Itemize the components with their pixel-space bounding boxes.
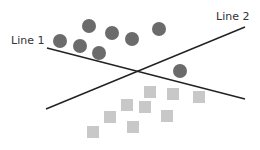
circle-point [105, 26, 119, 40]
line-2-label: Line 2 [216, 10, 249, 23]
circle-point [73, 39, 87, 53]
square-point [167, 88, 179, 100]
square-point [121, 99, 133, 111]
line-1-label: Line 1 [11, 34, 44, 47]
square-point [87, 126, 99, 138]
square-class-group [87, 86, 205, 138]
diagram-canvas: Line 1 Line 2 [0, 0, 260, 150]
circle-point [152, 22, 166, 36]
circle-point [82, 19, 96, 33]
square-point [144, 86, 156, 98]
square-point [127, 121, 139, 133]
square-point [193, 91, 205, 103]
circle-class-group [53, 19, 187, 78]
square-point [104, 111, 116, 123]
square-point [139, 101, 151, 113]
circle-point [125, 32, 139, 46]
circle-point [173, 64, 187, 78]
circle-point [53, 34, 67, 48]
circle-point [92, 46, 106, 60]
square-point [161, 110, 173, 122]
